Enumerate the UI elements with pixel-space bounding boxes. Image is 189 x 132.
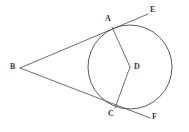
point-label-b: B [10,63,15,71]
point-label-e: E [150,6,155,14]
tangent-line-upper [20,14,148,68]
point-label-a: A [105,15,111,23]
point-label-f: F [152,113,157,121]
point-label-c: C [108,110,114,118]
geometry-canvas [0,0,189,132]
tangent-line-lower [20,68,150,118]
geometry-figure: B A C D E F [0,0,189,132]
point-label-d: D [134,63,140,71]
radius-segment-ad [112,27,130,67]
radius-segment-dc [115,67,130,108]
